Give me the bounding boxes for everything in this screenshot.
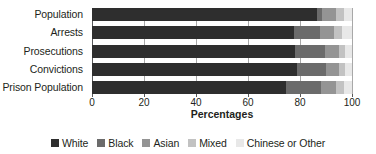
legend-label: Asian bbox=[153, 137, 179, 149]
plot-area bbox=[92, 8, 352, 94]
bar-arrests bbox=[92, 26, 352, 39]
bar-prosecutions bbox=[92, 45, 352, 58]
category-label: Population bbox=[0, 8, 88, 21]
bar-prison-population bbox=[92, 81, 352, 94]
legend-label: Chinese or Other bbox=[247, 137, 325, 149]
bar-segment bbox=[321, 81, 337, 94]
x-axis-title: Percentages bbox=[92, 108, 352, 120]
bar-segment bbox=[326, 63, 339, 76]
plot-right-border bbox=[352, 8, 353, 94]
bar-segment bbox=[344, 81, 352, 94]
bar-segment bbox=[320, 26, 334, 39]
legend-swatch-icon bbox=[142, 139, 150, 147]
category-label: Convictions bbox=[0, 63, 88, 76]
legend-item-chinese-or-other[interactable]: Chinese or Other bbox=[236, 137, 325, 149]
tick-label: 40 bbox=[190, 97, 201, 108]
bar-segment bbox=[295, 45, 325, 58]
category-axis-labels: PopulationArrestsProsecutionsConvictions… bbox=[0, 8, 88, 94]
bar-segment bbox=[92, 81, 286, 94]
bar-segment bbox=[345, 63, 352, 76]
bar-segment bbox=[92, 45, 295, 58]
stacked-bar-chart: PopulationArrestsProsecutionsConvictions… bbox=[0, 0, 376, 154]
bar-convictions bbox=[92, 63, 352, 76]
legend-swatch-icon bbox=[51, 139, 59, 147]
x-axis-ticks: 020406080100 bbox=[92, 94, 352, 106]
legend-swatch-icon bbox=[236, 139, 244, 147]
tick-label: 0 bbox=[89, 97, 95, 108]
tick-label: 80 bbox=[294, 97, 305, 108]
bar-segment bbox=[336, 8, 344, 21]
legend-label: Mixed bbox=[199, 137, 227, 149]
bar-segment bbox=[297, 63, 326, 76]
bar-segment bbox=[342, 26, 352, 39]
legend-swatch-icon bbox=[188, 139, 196, 147]
legend-item-black[interactable]: Black bbox=[97, 137, 133, 149]
bar-population bbox=[92, 8, 352, 21]
legend-label: Black bbox=[108, 137, 133, 149]
bar-group bbox=[92, 8, 352, 94]
bar-segment bbox=[92, 8, 317, 21]
tick-label: 20 bbox=[138, 97, 149, 108]
legend-item-mixed[interactable]: Mixed bbox=[188, 137, 227, 149]
legend-item-asian[interactable]: Asian bbox=[142, 137, 179, 149]
bar-segment bbox=[344, 8, 352, 21]
category-label: Prison Population bbox=[0, 81, 88, 94]
legend: WhiteBlackAsianMixedChinese or Other bbox=[0, 136, 376, 150]
legend-label: White bbox=[62, 137, 88, 149]
bar-segment bbox=[294, 26, 320, 39]
category-label: Arrests bbox=[0, 26, 88, 39]
bar-segment bbox=[92, 26, 294, 39]
category-label: Prosecutions bbox=[0, 45, 88, 58]
legend-swatch-icon bbox=[97, 139, 105, 147]
bar-segment bbox=[286, 81, 321, 94]
tick-label: 100 bbox=[344, 97, 361, 108]
bar-segment bbox=[322, 8, 336, 21]
bar-segment bbox=[92, 63, 297, 76]
legend-item-white[interactable]: White bbox=[51, 137, 88, 149]
bar-segment bbox=[345, 45, 352, 58]
bar-segment bbox=[334, 26, 342, 39]
tick-label: 60 bbox=[242, 97, 253, 108]
bar-segment bbox=[336, 81, 344, 94]
bar-segment bbox=[325, 45, 339, 58]
